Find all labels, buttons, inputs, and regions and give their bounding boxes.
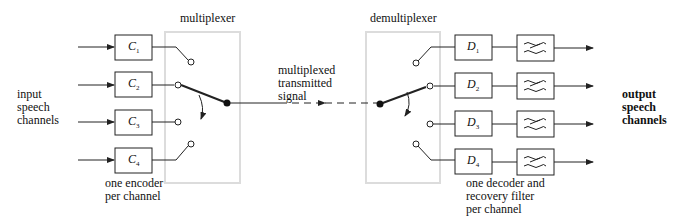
decoder-label-3: D3 — [467, 116, 479, 134]
input-label: inputspeechchannels — [17, 88, 59, 127]
mux-lead-1 — [152, 47, 188, 60]
demultiplexer-label: demultiplexer — [370, 12, 437, 25]
tdm-diagram — [0, 0, 681, 222]
demux-contact-1 — [413, 60, 419, 66]
mux-contact-2 — [175, 82, 181, 88]
encoder-label-3: C3 — [128, 115, 140, 133]
encoder-note: one encoderper channel — [105, 177, 163, 203]
encoder-label-4: C4 — [128, 153, 140, 171]
filter-symbol-2 — [524, 81, 546, 92]
demux-contact-4 — [413, 141, 419, 147]
mux-contact-3 — [175, 119, 181, 125]
transmitted-signal-label: multiplexedtransmittedsignal — [278, 64, 335, 103]
filter-box-4 — [517, 149, 554, 175]
encoder-label-2: C2 — [128, 77, 140, 95]
decoder-note: one decoder andrecovery filterper channe… — [466, 177, 545, 216]
encoder-label-1: C1 — [128, 40, 140, 58]
output-label: outputspeechchannels — [622, 88, 667, 127]
demux-contact-3 — [427, 121, 433, 127]
demux-pivot — [377, 101, 384, 108]
demultiplexer-box — [366, 32, 440, 183]
demux-lead-4 — [418, 146, 455, 160]
demux-contact-2 — [427, 83, 433, 89]
filter-box-1 — [517, 35, 554, 61]
decoder-label-1: D1 — [467, 40, 479, 58]
mux-lead-4 — [152, 146, 188, 160]
mux-pivot — [224, 100, 231, 107]
demux-lead-1 — [418, 47, 455, 61]
mux-rotation-arrow — [199, 95, 203, 119]
filter-symbol-4 — [524, 157, 546, 168]
filter-box-2 — [517, 73, 554, 99]
filter-symbol-3 — [524, 119, 546, 130]
decoder-label-4: D4 — [467, 154, 479, 172]
mux-contact-1 — [188, 59, 194, 65]
filter-box-3 — [517, 111, 554, 137]
mux-switch-arm — [181, 85, 227, 103]
mux-contact-4 — [188, 141, 194, 147]
filter-symbol-1 — [524, 43, 546, 54]
demux-switch-arm — [380, 87, 426, 104]
decoder-label-2: D2 — [467, 78, 479, 96]
multiplexer-label: multiplexer — [180, 12, 235, 25]
